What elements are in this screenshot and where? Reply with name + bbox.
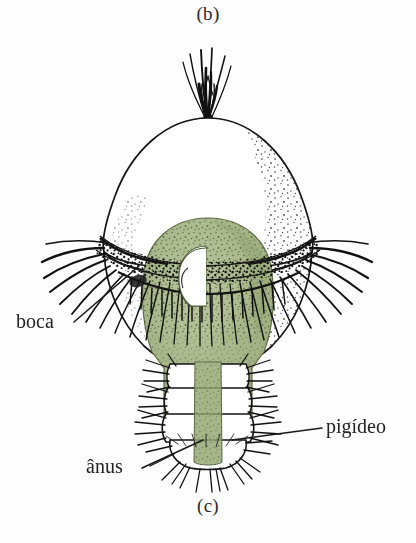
panel-label-b: (b) [0, 3, 416, 25]
annotation-label-boca: boca [16, 310, 54, 333]
annotation-label-anus: ânus [86, 455, 123, 478]
trunk-segments [162, 362, 254, 470]
trochophore-larva-figure [0, 0, 416, 543]
panel-label-c: (c) [0, 495, 416, 517]
annotation-label-pigideo: pigídeo [326, 415, 386, 438]
